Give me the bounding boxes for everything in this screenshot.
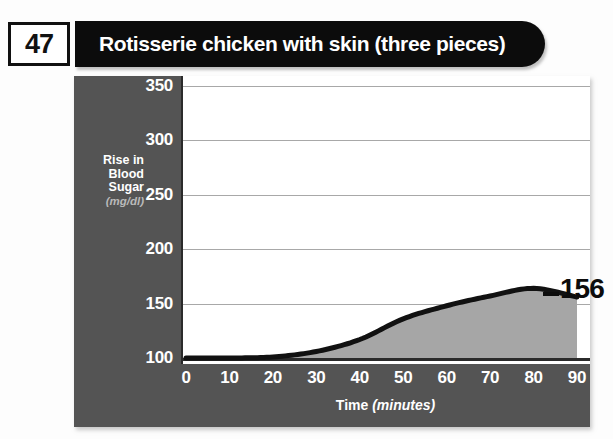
data-series-svg	[181, 76, 590, 364]
x-tick-label: 10	[220, 368, 238, 388]
x-tick-label: 60	[438, 368, 456, 388]
y-tick-label: 250	[113, 185, 173, 205]
y-tick-label: 300	[113, 130, 173, 150]
y-tick-label: 150	[113, 294, 173, 314]
y-axis-title-line1: Rise in	[78, 154, 144, 168]
end-value-tick	[543, 292, 559, 296]
area-fill	[186, 288, 577, 358]
y-axis-title-line2: Blood	[78, 168, 144, 182]
x-tick-label: 80	[524, 368, 542, 388]
x-tick-label: 20	[264, 368, 282, 388]
x-tick-label: 0	[181, 368, 190, 388]
x-tick-label: 50	[394, 368, 412, 388]
x-tick-label: 70	[481, 368, 499, 388]
x-axis-unit: (minutes)	[372, 397, 435, 413]
badge-number: 47	[25, 31, 53, 58]
x-axis-title-text: Time	[336, 397, 368, 413]
end-value-label: 156	[560, 275, 604, 303]
y-tick-label: 200	[113, 239, 173, 259]
page-title: Rotisserie chicken with skin (three piec…	[75, 32, 505, 56]
chart-container: Rise in Blood Sugar (mg/dl) 100150200250…	[74, 76, 590, 427]
title-banner: Rotisserie chicken with skin (three piec…	[75, 21, 545, 67]
plot-area	[181, 76, 590, 364]
y-axis-panel: Rise in Blood Sugar (mg/dl) 100150200250…	[74, 76, 181, 427]
x-tick-label: 40	[351, 368, 369, 388]
x-tick-label: 30	[307, 368, 325, 388]
recipe-number-badge: 47	[8, 22, 70, 66]
header: 47 Rotisserie chicken with skin (three p…	[0, 0, 613, 76]
x-tick-label: 90	[568, 368, 586, 388]
x-axis-title: Time (minutes)	[181, 397, 590, 413]
y-tick-label: 350	[113, 76, 173, 96]
y-tick-label: 100	[113, 348, 173, 368]
